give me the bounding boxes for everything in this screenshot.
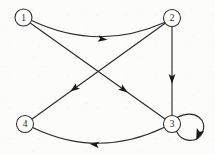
figure-canvas: 1 2 3 4 [0, 0, 215, 154]
node-3-label: 3 [170, 119, 175, 129]
arrowhead-2-4 [68, 83, 80, 94]
node-1[interactable]: 1 [15, 9, 32, 26]
arrowhead-1-3 [118, 84, 130, 95]
edge-3-to-3-self-loop [177, 114, 205, 141]
edge-1-to-2 [32, 21, 165, 43]
edge-path-1-2 [32, 21, 165, 37]
node-1-label: 1 [21, 13, 26, 23]
node-4[interactable]: 4 [17, 116, 34, 133]
edge-2-to-3 [169, 27, 176, 116]
edge-3-to-4 [33, 127, 164, 148]
node-2[interactable]: 2 [164, 10, 181, 27]
arrowhead-3-4 [89, 140, 99, 148]
edge-path-3-4 [33, 127, 164, 143]
edge-path-3-3 [177, 114, 204, 140]
directed-graph: 1 2 3 4 [0, 0, 215, 154]
node-3[interactable]: 3 [164, 116, 181, 133]
node-4-label: 4 [23, 119, 28, 129]
node-2-label: 2 [170, 13, 175, 23]
